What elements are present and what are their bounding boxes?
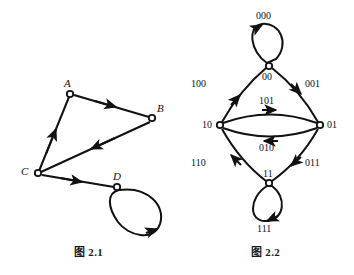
edge-00-01-arrowhead [291, 84, 301, 94]
figure-2-1-caption: 图 2.1 [0, 243, 177, 259]
vertex-A [67, 91, 73, 97]
edge-label-111: 111 [257, 224, 271, 234]
vertex-label-D: D [113, 171, 121, 182]
edge-label-100: 100 [191, 79, 206, 89]
edge-C-D-arrowhead [60, 178, 82, 182]
edge-10-00-arrowhead [231, 95, 240, 105]
vertex-label-C: C [21, 166, 28, 177]
edge-10-01 [223, 115, 317, 124]
figure-2-1-vertices [35, 91, 155, 190]
figure-2-2-caption: 图 2.2 [177, 243, 354, 259]
vertex-10 [217, 122, 223, 128]
vertex-D [114, 184, 120, 190]
vertex-01 [317, 122, 323, 128]
figure-2-1-edges [39, 95, 161, 235]
vertex-label-10: 10 [202, 120, 212, 130]
figure-2-2-panel: 00 10 01 11 000 001 100 101 010 011 110 … [177, 0, 354, 275]
vertex-label-B: B [157, 103, 164, 114]
edge-C-A-arrowhead [46, 129, 56, 154]
edge-D-self-loop [110, 189, 161, 235]
edge-00-00-loop [252, 24, 282, 63]
vertex-label-A: A [64, 78, 71, 89]
vertex-00 [266, 63, 272, 69]
edge-B-C-arrowhead [91, 138, 115, 149]
vertex-B [149, 115, 155, 121]
figure-2-2-edges [222, 24, 318, 221]
vertex-11 [266, 180, 272, 186]
edge-label-001: 001 [305, 79, 320, 89]
figure-2-1-panel: A B C D 图 2.1 [0, 0, 177, 275]
edge-01-10 [223, 128, 317, 137]
edge-label-000: 000 [256, 11, 271, 21]
edge-A-B-arrowhead [95, 101, 116, 107]
vertex-label-00: 00 [262, 72, 272, 82]
figure-page: A B C D 图 2.1 [0, 0, 354, 275]
edge-label-011: 011 [305, 158, 320, 168]
vertex-label-11: 11 [263, 169, 273, 179]
vertex-label-01: 01 [327, 120, 337, 130]
vertex-C [35, 170, 41, 176]
figure-2-1-graphic [0, 0, 177, 275]
edge-label-110: 110 [191, 158, 206, 168]
edge-label-010: 010 [259, 143, 274, 153]
edge-label-101: 101 [259, 96, 274, 106]
